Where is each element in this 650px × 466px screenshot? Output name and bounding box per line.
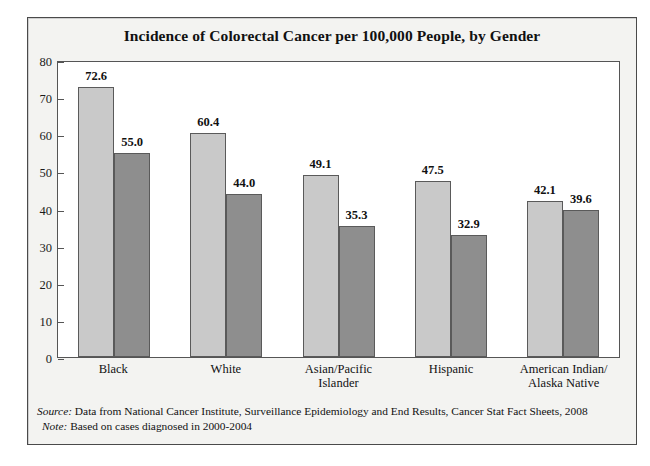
bar-value-label: 55.0 (121, 135, 143, 150)
bar-women[interactable] (114, 153, 150, 357)
bar-group: 42.139.6 (507, 62, 619, 357)
bar-men[interactable] (415, 181, 451, 357)
bar-slot: 60.4 (190, 62, 226, 357)
bar-women[interactable] (451, 235, 487, 357)
bar-slot: 55.0 (114, 62, 150, 357)
bar-slot: 47.5 (415, 62, 451, 357)
bar-men[interactable] (190, 133, 226, 357)
x-axis-label: American Indian/Alaska Native (507, 362, 620, 390)
source-key: Source: (37, 405, 72, 417)
x-axis-label-line: Black (57, 362, 170, 376)
y-axis-tick-label: 20 (22, 277, 52, 292)
y-axis-tick-label: 40 (22, 203, 52, 218)
x-axis-label: Asian/PacificIslander (282, 362, 395, 390)
bar-women[interactable] (339, 226, 375, 357)
bar-slot: 49.1 (303, 62, 339, 357)
bar-slot: 32.9 (451, 62, 487, 357)
bar-men[interactable] (303, 175, 339, 357)
y-axis-tick-label: 0 (22, 352, 52, 367)
bar-women[interactable] (226, 194, 262, 357)
bar-slot: 35.3 (339, 62, 375, 357)
x-axis-label-line: American Indian/ (507, 362, 620, 376)
y-axis-tick-label: 30 (22, 240, 52, 255)
bar-value-label: 35.3 (346, 208, 368, 223)
bar-group: 60.444.0 (170, 62, 282, 357)
bar-value-label: 49.1 (310, 157, 332, 172)
bar-value-label: 47.5 (422, 163, 444, 178)
note-line: Note: Based on cases diagnosed in 2000-2… (37, 419, 627, 434)
bar-value-label: 39.6 (570, 192, 592, 207)
note-key: Note: (42, 420, 67, 432)
y-axis-tick-mark (58, 359, 64, 360)
y-axis-tick-label: 70 (22, 92, 52, 107)
x-axis-label: Hispanic (395, 362, 508, 390)
bar-value-label: 72.6 (85, 69, 107, 84)
bar-value-label: 44.0 (233, 176, 255, 191)
bar-group: 72.655.0 (58, 62, 170, 357)
y-axis-tick-label: 50 (22, 166, 52, 181)
footnotes: Source: Data from National Cancer Instit… (37, 404, 627, 434)
bar-slot: 72.6 (78, 62, 114, 357)
x-axis-labels: BlackWhiteAsian/PacificIslanderHispanicA… (57, 362, 620, 390)
x-axis-label: White (170, 362, 283, 390)
x-axis-label-line: Islander (282, 376, 395, 390)
bar-slot: 39.6 (563, 62, 599, 357)
bar-groups: 72.655.060.444.049.135.347.532.942.139.6 (58, 62, 619, 357)
plot-area: 01020304050607080 72.655.060.444.049.135… (57, 61, 620, 358)
y-axis-tick-label: 80 (22, 55, 52, 70)
bar-women[interactable] (563, 210, 599, 357)
x-axis-label-line: Alaska Native (507, 376, 620, 390)
bar-men[interactable] (78, 87, 114, 357)
x-axis-label-line: White (170, 362, 283, 376)
bar-slot: 44.0 (226, 62, 262, 357)
bar-value-label: 60.4 (197, 115, 219, 130)
bar-men[interactable] (527, 201, 563, 357)
y-axis-tick-label: 10 (22, 314, 52, 329)
x-axis-label-line: Hispanic (395, 362, 508, 376)
y-axis-tick-label: 60 (22, 129, 52, 144)
source-line: Source: Data from National Cancer Instit… (37, 404, 627, 419)
bar-value-label: 42.1 (534, 183, 556, 198)
chart-title: Incidence of Colorectal Cancer per 100,0… (27, 27, 637, 45)
note-text: Based on cases diagnosed in 2000-2004 (67, 420, 252, 432)
x-axis-label-line: Asian/Pacific (282, 362, 395, 376)
bar-value-label: 32.9 (458, 217, 480, 232)
bar-group: 49.135.3 (282, 62, 394, 357)
bar-group: 47.532.9 (395, 62, 507, 357)
figure: Incidence of Colorectal Cancer per 100,0… (0, 0, 650, 466)
bar-slot: 42.1 (527, 62, 563, 357)
source-text: Data from National Cancer Institute, Sur… (72, 405, 588, 417)
x-axis-label: Black (57, 362, 170, 390)
